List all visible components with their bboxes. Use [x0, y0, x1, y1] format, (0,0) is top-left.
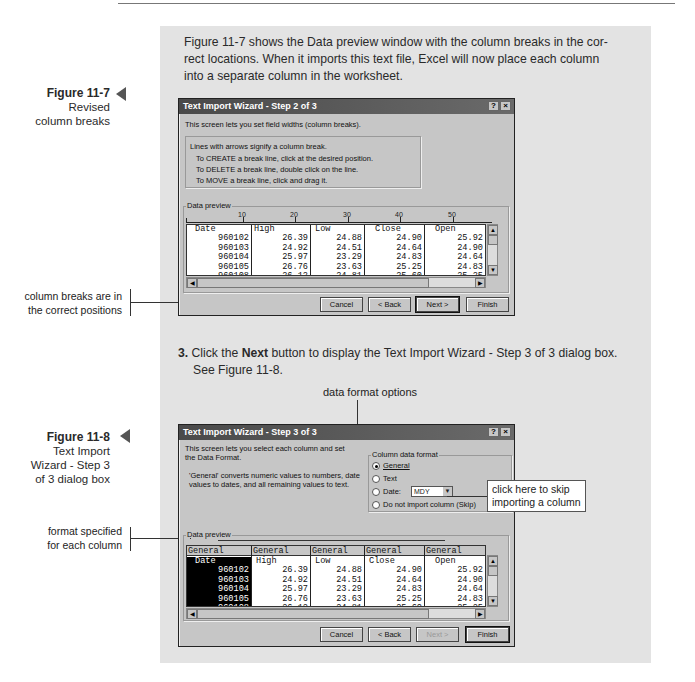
- step-line: See Figure 11-8.: [178, 362, 648, 379]
- radio-label: Do not import column (Skip): [383, 500, 476, 509]
- callout-line: the correct positions: [0, 303, 122, 317]
- intro-line: rect locations. When it imports this tex…: [184, 51, 644, 68]
- scroll-left-icon[interactable]: ◀: [187, 609, 197, 619]
- column-format-header[interactable]: General: [425, 546, 486, 556]
- figure-11-7-label: Figure 11-7 Revised column breaks: [20, 86, 110, 128]
- figure-pointer-icon: [120, 429, 130, 443]
- preview-column-open[interactable]: Open 25.92 24.90 24.64 24.83 25.25: [425, 557, 485, 607]
- back-button[interactable]: < Back: [368, 627, 411, 642]
- scroll-thumb[interactable]: [197, 609, 429, 619]
- vertical-scrollbar[interactable]: ▲ ▼: [487, 555, 498, 607]
- select-value: MDY: [414, 488, 430, 495]
- preview-column-high[interactable]: High 26.39 24.92 25.97 26.76 26.12: [252, 557, 310, 607]
- figure-number: Figure 11-7: [20, 86, 110, 100]
- radio-icon: [372, 501, 380, 509]
- ruler-number: 10: [238, 211, 246, 218]
- step-text: Click the: [192, 346, 242, 360]
- table-cell: 24.81: [311, 272, 364, 276]
- data-preview-table[interactable]: Date 960102 960103 960104 960105 960108 …: [186, 224, 486, 276]
- data-preview-table[interactable]: General General General General General …: [186, 545, 486, 607]
- scroll-thumb[interactable]: [488, 566, 498, 576]
- table-cell: 25.60: [365, 604, 424, 607]
- scroll-thumb[interactable]: [197, 278, 429, 288]
- radio-label: Date:: [383, 487, 401, 496]
- scroll-up-icon[interactable]: ▲: [488, 225, 498, 235]
- callout-bracket: [130, 527, 131, 551]
- scroll-left-icon[interactable]: ◀: [187, 278, 197, 288]
- step-text: button to display the Text Import Wizard…: [268, 346, 617, 360]
- column-format-header[interactable]: General: [311, 546, 364, 556]
- figure-caption: Wizard - Step 3: [10, 458, 110, 472]
- close-button[interactable]: ×: [500, 101, 511, 111]
- scroll-down-icon[interactable]: ▼: [488, 265, 498, 275]
- data-preview-group: Data preview General General General Gen…: [183, 535, 509, 621]
- text-import-wizard-step2-dialog: Text Import Wizard - Step 2 of 3 ? × Thi…: [178, 98, 515, 316]
- finish-button[interactable]: Finish: [466, 297, 509, 312]
- column-ruler[interactable]: 10 20 30 40 50: [186, 211, 492, 223]
- radio-icon: [372, 475, 380, 483]
- next-button[interactable]: Next >: [416, 627, 459, 642]
- radio-date[interactable]: Date:: [372, 487, 401, 496]
- instructions-box: Lines with arrows signify a column break…: [185, 136, 421, 188]
- callout-line: importing a column: [492, 496, 581, 509]
- table-cell: 960108: [187, 272, 251, 276]
- format-callout: format specified for each column: [0, 524, 122, 552]
- help-button[interactable]: ?: [488, 101, 499, 111]
- table-cell: 26.12: [252, 604, 310, 607]
- preview-column-close: Close 24.90 24.64 24.83 25.25 25.60: [365, 225, 424, 275]
- next-button[interactable]: Next >: [416, 297, 459, 312]
- column-format-header[interactable]: General: [365, 546, 424, 556]
- back-button[interactable]: < Back: [368, 297, 411, 312]
- preview-column-low: Low 24.88 24.51 23.29 23.63 24.81: [311, 225, 364, 275]
- scroll-thumb[interactable]: [488, 235, 498, 245]
- intro-line: Figure 11-7 shows the Data preview windo…: [184, 34, 644, 51]
- table-cell: 960108: [187, 604, 251, 607]
- scroll-up-icon[interactable]: ▲: [488, 556, 498, 566]
- skip-column-callout: click here to skip importing a column: [487, 480, 586, 512]
- table-cell: 26.12: [252, 272, 310, 276]
- figure-caption: of 3 dialog box: [10, 472, 110, 486]
- cancel-button[interactable]: Cancel: [320, 297, 363, 312]
- text-import-wizard-step3-dialog: Text Import Wizard - Step 3 of 3 ? × Thi…: [178, 424, 515, 647]
- cancel-button[interactable]: Cancel: [320, 627, 363, 642]
- ruler-number: 50: [448, 211, 456, 218]
- skip-callout-leader: [447, 496, 487, 497]
- finish-button[interactable]: Finish: [466, 627, 509, 642]
- ruler-number: 20: [290, 211, 298, 218]
- radio-general[interactable]: General: [372, 461, 410, 470]
- dialog-description: This screen lets you select each column …: [185, 444, 345, 453]
- preview-column-low[interactable]: Low 24.88 24.51 23.29 23.63 24.81: [311, 557, 364, 607]
- figure-caption: column breaks: [20, 114, 110, 128]
- close-button[interactable]: ×: [500, 427, 511, 437]
- figure-number: Figure 11-8: [10, 430, 110, 444]
- step-number: 3.: [178, 346, 188, 360]
- help-button[interactable]: ?: [488, 427, 499, 437]
- scroll-right-icon[interactable]: ▶: [475, 609, 485, 619]
- preview-column-date-selected[interactable]: Date 960102 960103 960104 960105 960108: [187, 557, 251, 607]
- instruction-line: To MOVE a break line, click and drag it.: [196, 176, 327, 185]
- column-format-header[interactable]: General: [252, 546, 310, 556]
- callout-line: column breaks are in: [0, 289, 122, 303]
- instruction-line: To CREATE a break line, click at the des…: [196, 154, 373, 163]
- data-preview-group: Data preview 10 20 30 40 50 Date 960102 …: [183, 206, 509, 293]
- step-3-instruction: 3. Click the Next button to display the …: [178, 345, 648, 379]
- preview-column-date: Date 960102 960103 960104 960105 960108: [187, 225, 251, 275]
- scroll-right-icon[interactable]: ▶: [475, 278, 485, 288]
- dialog-title: Text Import Wizard - Step 2 of 3: [183, 101, 317, 111]
- vertical-scrollbar[interactable]: ▲ ▼: [487, 224, 498, 276]
- preview-column-close[interactable]: Close 24.90 24.64 24.83 25.25 25.60: [365, 557, 424, 607]
- step-bold-text: Next: [242, 346, 268, 360]
- horizontal-scrollbar[interactable]: ◀ ▶: [186, 608, 486, 619]
- callout-line: format specified: [0, 524, 122, 538]
- radio-text[interactable]: Text: [372, 474, 397, 483]
- column-format-header[interactable]: General: [187, 546, 251, 556]
- format-arrow-line: [218, 540, 445, 541]
- table-cell: 24.81: [311, 604, 364, 607]
- chevron-down-icon[interactable]: ▼: [443, 487, 452, 496]
- ruler-number: 30: [343, 211, 351, 218]
- radio-skip[interactable]: Do not import column (Skip): [372, 500, 476, 509]
- scroll-down-icon[interactable]: ▼: [488, 596, 498, 606]
- horizontal-scrollbar[interactable]: ◀ ▶: [186, 277, 486, 288]
- top-rule: [118, 3, 675, 4]
- callout-line: for each column: [0, 538, 122, 552]
